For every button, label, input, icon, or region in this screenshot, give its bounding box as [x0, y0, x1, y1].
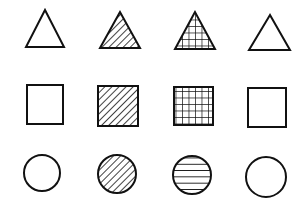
circle-horizontal-lines-r3c3 — [173, 156, 211, 194]
triangle-grid-r1c3 — [175, 12, 215, 49]
triangle-diagonal-hatch-r1c2 — [100, 12, 140, 48]
square-diagonal-hatch-r2c2 — [98, 86, 138, 126]
square-grid-r2c3 — [174, 87, 213, 125]
shape-pattern-grid — [0, 0, 306, 208]
circle-diagonal-hatch-r3c2 — [98, 155, 136, 193]
